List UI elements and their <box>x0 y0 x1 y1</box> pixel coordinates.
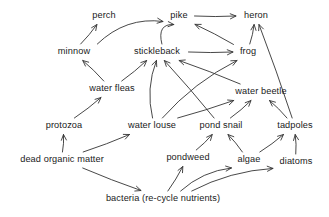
arrow-frog-to-pike <box>195 24 234 44</box>
arrow-minnow-to-pike <box>97 21 163 44</box>
node-label-stickleback: stickleback <box>134 47 180 56</box>
arrow-pondweed-to-pondsnail <box>196 135 212 151</box>
food-web-diagram: perchpikeheronminnowsticklebackfrogwater… <box>0 0 329 217</box>
node-label-bacteria: bacteria (re-cycle nutrients) <box>106 194 220 203</box>
arrow-waterlouse-to-waterbeetle <box>178 101 234 119</box>
node-label-pondweed: pondweed <box>166 153 209 162</box>
arrow-bacteria-to-diatoms <box>192 168 273 191</box>
food-web-arrows <box>0 0 329 217</box>
node-label-algae: algae <box>238 155 261 164</box>
arrow-pondsnail-to-waterbeetle <box>230 101 251 119</box>
node-label-waterlouse: water louse <box>128 121 176 130</box>
node-label-waterbeetle: water beetle <box>235 87 286 96</box>
arrow-algae-to-pondsnail <box>228 135 242 153</box>
node-label-pondsnail: pond snail <box>200 121 243 130</box>
arrow-waterfleas-to-minnow <box>83 61 104 82</box>
arrow-bacteria-to-algae <box>181 168 232 191</box>
node-label-tadpoles: tadpoles <box>277 121 313 130</box>
arrow-diatoms-to-tadpoles <box>295 135 296 155</box>
arrow-tadpoles-to-waterbeetle <box>270 101 288 119</box>
arrow-bacteria-to-pondweed <box>168 167 183 192</box>
node-label-heron: heron <box>244 11 268 20</box>
arrow-protozoa-to-waterfleas <box>74 98 101 119</box>
arrow-waterlouse-to-stickleback <box>150 61 157 119</box>
arrow-minnow-to-perch <box>81 25 97 45</box>
node-label-frog: frog <box>240 47 256 56</box>
node-label-waterfleas: water fleas <box>89 84 135 93</box>
node-label-minnow: minnow <box>58 47 90 56</box>
node-label-perch: perch <box>92 11 115 20</box>
node-label-diatoms: diatoms <box>280 157 313 166</box>
arrow-stickleback-to-frog <box>189 52 234 53</box>
arrow-stickleback-to-pike <box>161 24 174 44</box>
node-label-protozoa: protozoa <box>46 121 83 130</box>
arrow-waterfleas-to-stickleback <box>122 61 147 82</box>
node-label-pike: pike <box>170 11 187 20</box>
node-label-deadmatter: dead organic matter <box>20 155 104 164</box>
arrow-deadmatter-to-bacteria <box>83 168 141 191</box>
arrow-deadmatter-to-waterlouse <box>83 135 129 153</box>
arrow-algae-to-tadpoles <box>260 135 284 153</box>
arrow-waterlouse-to-frog <box>162 61 237 119</box>
arrow-pike-to-heron <box>195 16 237 17</box>
arrow-tadpoles-to-heron <box>259 25 292 119</box>
